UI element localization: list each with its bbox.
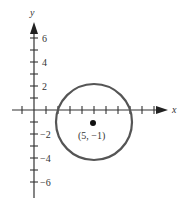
y-tick-label-4: 4 (42, 57, 47, 68)
center-point-label: (5, −1) (78, 130, 105, 142)
y-axis: y 6 4 2 −2 −4 −6 (29, 7, 51, 198)
coordinate-plane: x y 6 4 2 −2 −4 −6 (5, −1) (0, 0, 185, 207)
y-tick-label-neg6: −6 (40, 177, 51, 188)
y-tick-label-neg2: −2 (40, 129, 51, 140)
y-axis-label: y (29, 7, 35, 18)
y-tick-label-2: 2 (42, 81, 47, 92)
x-axis-arrow-icon (156, 106, 168, 114)
y-tick-label-6: 6 (42, 33, 47, 44)
x-axis: x (12, 104, 177, 115)
y-axis-arrow-icon (30, 22, 38, 34)
x-axis-label: x (171, 104, 177, 115)
y-tick-label-neg4: −4 (40, 153, 51, 164)
center-point (90, 120, 96, 126)
